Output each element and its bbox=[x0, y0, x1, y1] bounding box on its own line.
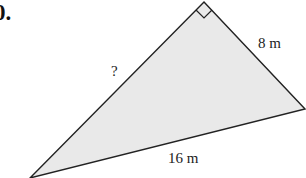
unknown-side-label: ? bbox=[111, 63, 118, 80]
triangle-diagram bbox=[0, 0, 306, 178]
long-side-label: 16 m bbox=[168, 150, 198, 167]
short-leg-label: 8 m bbox=[258, 35, 281, 52]
